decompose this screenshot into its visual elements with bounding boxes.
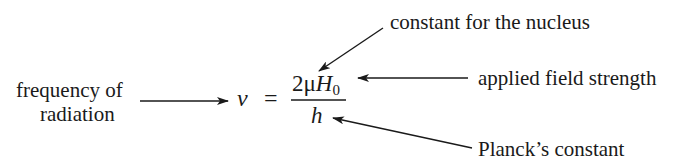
symbol-nu: ν xyxy=(237,86,248,110)
numerator-subscript: 0 xyxy=(332,82,340,98)
label-frequency-line2: radiation xyxy=(40,104,115,125)
numerator-coefficient: 2 xyxy=(292,71,304,96)
numerator-H: H xyxy=(316,71,333,96)
label-field-strength: applied field strength xyxy=(478,68,656,89)
arrow-nucleus-constant xyxy=(319,28,383,71)
arrow-planck xyxy=(333,118,472,148)
label-planck-constant: Planck’s constant xyxy=(478,139,624,160)
denominator-h: h xyxy=(311,104,323,127)
label-frequency-line1: frequency of xyxy=(16,80,123,101)
numerator-mu: μ xyxy=(304,71,316,96)
equals-sign: = xyxy=(264,86,278,110)
label-nucleus-constant: constant for the nucleus xyxy=(390,12,590,33)
numerator: 2μH0 xyxy=(292,72,340,98)
